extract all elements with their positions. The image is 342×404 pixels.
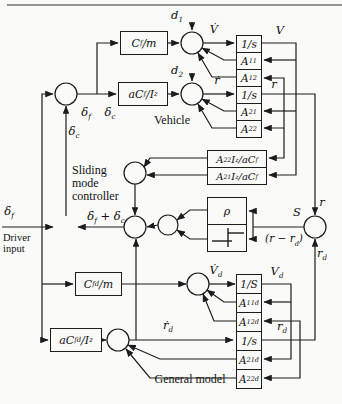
rdot-label: ṙ (214, 73, 220, 87)
wire-rho-out (177, 210, 207, 220)
wire-rd-to-sum-right (262, 239, 315, 340)
block-sign-function (207, 224, 247, 252)
delta-f-top-label: δf (81, 105, 91, 121)
sum-junction-eq-control (124, 162, 146, 184)
sum-junction-steer (55, 83, 77, 105)
wire-r-to-sum-right (262, 94, 315, 215)
block-a11d: A11d (236, 293, 262, 313)
d1-label: d1 (171, 8, 183, 24)
delta-sum-label: δf + δc (87, 209, 124, 225)
block-a22d: A22d (236, 369, 262, 389)
block-a21iz-acf: A21Iz/aCf (207, 167, 267, 185)
sum-junction-vdot-d (187, 273, 209, 295)
vehicle-caption: Vehicle (154, 113, 190, 128)
vdot-d-label: V̇d (210, 263, 223, 279)
block-integrator-rd: 1/s (236, 331, 262, 351)
s-label: S (293, 205, 301, 219)
sum-junction-switching (158, 215, 178, 235)
block-integrator-r: 1/s (236, 86, 262, 104)
wire-delta-f-up (42, 94, 53, 227)
wire-s-to-sign (249, 227, 253, 239)
wire-sign-out (177, 230, 207, 239)
wire-v-feedback (262, 43, 296, 175)
block-a21: A21 (236, 103, 262, 121)
block-rho-gain: ρ (207, 197, 247, 225)
sum-junction-vdot (181, 32, 203, 54)
block-a11: A11 (236, 52, 262, 70)
sum-junction-delta-c (124, 216, 146, 238)
block-cf-m: Cf/m (120, 31, 168, 55)
rd-mid-label: rd (277, 319, 287, 335)
wire-a12d-feedback (203, 294, 236, 321)
r-top-label: r (271, 77, 277, 91)
r-right-label: r (319, 195, 325, 209)
d2-label: d2 (171, 63, 183, 79)
delta-c-mid-label: δc (69, 124, 80, 140)
wire-a11d-feedback (207, 290, 236, 302)
sum-junction-rdot-d (107, 329, 129, 351)
block-acf-iz: aCf/Iz (118, 82, 168, 106)
block-a22iz-acf: A22Iz/aCf (207, 150, 267, 168)
driver-input-caption-line2: input (3, 243, 25, 254)
wire-a21d-feedback (128, 345, 236, 359)
vd-label: Vd (271, 264, 284, 280)
block-acfd-iz: aCfd/Iz (50, 328, 102, 352)
wire-branch-to-cf (97, 43, 118, 94)
sum-junction-error (304, 216, 326, 238)
driver-input-caption-line1: Driver (3, 232, 30, 243)
wire-switch-to-sum (147, 225, 158, 227)
rd-right-label: rd (317, 246, 327, 262)
vdot-label: V̇ (210, 22, 218, 36)
wire-r-to-a22iz (269, 128, 284, 158)
block-cfd-m: Cfd/m (75, 272, 122, 296)
wire-s-to-rho (249, 211, 253, 227)
delta-f-driver-label: δf (4, 204, 14, 220)
general-model-caption: General model (155, 372, 226, 387)
sum-junction-rdot (181, 83, 203, 105)
block-a22: A22 (236, 120, 262, 138)
sign-function-icon (209, 225, 246, 251)
rdot-d-label: ṙd (163, 318, 173, 334)
controller-caption-line3: controller (72, 189, 119, 204)
v-label: V (276, 23, 284, 37)
block-diagram: Cf/m aCf/Iz 1/s A11 A12 1/s A21 A22 A22I… (0, 0, 342, 404)
block-a21d: A21d (236, 350, 262, 370)
r-minus-rd-label: (r − rd) (265, 232, 303, 247)
block-integrator-vd: 1/S (236, 274, 262, 294)
block-a12: A12 (236, 69, 262, 87)
wire-a11-feedback (202, 48, 236, 60)
wire-a21-feedback (202, 99, 236, 111)
wire-a22iz-to-sum (144, 158, 207, 167)
block-a12d: A12d (236, 312, 262, 332)
delta-c-top-label: δc (105, 105, 116, 121)
block-integrator-v: 1/s (236, 35, 262, 53)
